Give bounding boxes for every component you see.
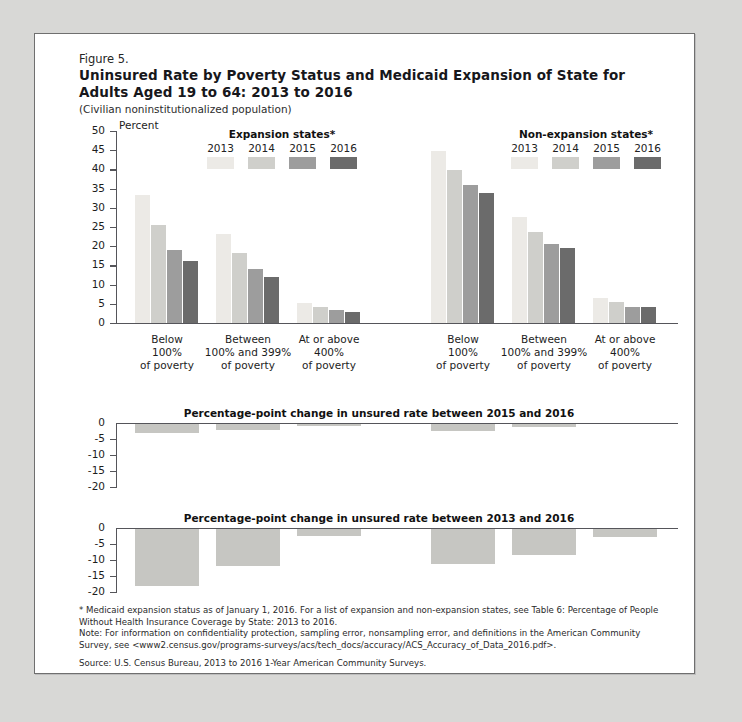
bar <box>593 298 608 323</box>
y-tick-label: 40 <box>79 162 105 174</box>
y-tick-label: 50 <box>79 124 105 136</box>
delta-bar <box>512 424 576 427</box>
legend-swatch-2016 <box>330 157 357 169</box>
y-tick <box>110 576 117 577</box>
y-tick <box>110 304 117 305</box>
y-tick <box>110 208 117 209</box>
main-bar-chart: Percent 50454035302520151050 Below100%of… <box>79 122 679 384</box>
y-tick <box>110 227 117 228</box>
delta-bar <box>431 424 495 431</box>
y-tick <box>110 560 117 561</box>
y-tick <box>110 246 117 247</box>
bar <box>447 170 462 323</box>
legend-year-2015: 2015 <box>593 142 620 154</box>
legend-swatch-2015 <box>593 157 620 169</box>
legend-swatch-2014 <box>248 157 275 169</box>
y-tick-label: 30 <box>79 201 105 213</box>
legend-swatch-2016 <box>634 157 661 169</box>
y-tick-label: 5 <box>79 297 105 309</box>
y-tick <box>110 592 117 593</box>
main-x-axis <box>116 323 678 324</box>
y-tick-label: 10 <box>79 278 105 290</box>
figure-subtitle: (Civilian noninstitutionalized populatio… <box>79 103 292 115</box>
y-tick <box>110 487 117 488</box>
y-tick-label: -10 <box>79 448 105 460</box>
figure-notes: * Medicaid expansion status as of Januar… <box>79 605 669 670</box>
y-tick-label: -15 <box>79 569 105 581</box>
bar <box>313 307 328 323</box>
footnote-text: * Medicaid expansion status as of Januar… <box>79 605 669 628</box>
y-tick-label: 0 <box>79 316 105 328</box>
delta-bar <box>135 529 199 586</box>
bar <box>512 217 527 323</box>
y-tick-label: 20 <box>79 239 105 251</box>
delta-bar <box>512 529 576 555</box>
y-tick-label: 25 <box>79 220 105 232</box>
bar <box>345 312 360 323</box>
delta-bar <box>135 424 199 433</box>
figure-number: Figure 5. <box>79 52 129 66</box>
legend-year-2016: 2016 <box>330 142 357 154</box>
bar <box>135 195 150 323</box>
bar <box>431 151 446 323</box>
legend-non-expansion-title: Non-expansion states* <box>491 128 681 140</box>
delta2-title: Percentage-point change in unsured rate … <box>79 512 679 524</box>
delta-bar <box>593 529 657 537</box>
y-tick-label: 0 <box>79 416 105 428</box>
figure-title: Uninsured Rate by Poverty Status and Med… <box>79 67 679 101</box>
delta-bar <box>216 424 280 430</box>
y-tick-label: 35 <box>79 182 105 194</box>
bar <box>479 193 494 323</box>
bar <box>329 310 344 323</box>
legend-year-2014: 2014 <box>552 142 579 154</box>
bar <box>560 248 575 323</box>
y-tick-label: -5 <box>79 537 105 549</box>
legend-expansion-title: Expansion states* <box>197 128 367 140</box>
legend-swatch-2013 <box>511 157 538 169</box>
delta-bar <box>297 424 361 426</box>
y-tick <box>110 471 117 472</box>
change-2015-2016-panel: Percentage-point change in unsured rate … <box>79 407 679 489</box>
bar <box>641 307 656 323</box>
legend-expansion-swatches <box>197 157 367 169</box>
bar <box>528 232 543 323</box>
y-tick <box>110 455 117 456</box>
legend-swatch-2013 <box>207 157 234 169</box>
bar <box>625 307 640 324</box>
category-label: At or above400%of poverty <box>264 333 394 372</box>
bar <box>609 302 624 323</box>
legend-year-2013: 2013 <box>511 142 538 154</box>
note-text: Note: For information on confidentiality… <box>79 628 669 651</box>
legend-expansion-states: Expansion states* 2013 2014 2015 2016 <box>197 128 367 169</box>
delta-bar <box>431 529 495 564</box>
y-tick-label: -20 <box>79 585 105 597</box>
bar <box>264 277 279 323</box>
y-axis-unit-label: Percent <box>119 119 159 131</box>
bar <box>216 234 231 323</box>
y-tick <box>110 169 117 170</box>
y-tick <box>110 189 117 190</box>
delta1-title: Percentage-point change in unsured rate … <box>79 407 679 419</box>
bar-group <box>431 131 495 323</box>
y-tick <box>110 544 117 545</box>
y-tick <box>110 131 117 132</box>
bar <box>544 244 559 323</box>
bar <box>151 225 166 323</box>
delta-bar <box>216 529 280 566</box>
y-tick <box>110 150 117 151</box>
legend-year-2014: 2014 <box>248 142 275 154</box>
figure-card: Figure 5. Uninsured Rate by Poverty Stat… <box>34 33 695 674</box>
y-tick-label: -5 <box>79 432 105 444</box>
y-tick-label: -20 <box>79 480 105 492</box>
y-tick <box>110 439 117 440</box>
y-tick <box>110 285 117 286</box>
source-text: Source: U.S. Census Bureau, 2013 to 2016… <box>79 658 669 670</box>
legend-year-2013: 2013 <box>207 142 234 154</box>
legend-swatch-2014 <box>552 157 579 169</box>
change-2013-2016-panel: Percentage-point change in unsured rate … <box>79 512 679 594</box>
delta-bar <box>297 529 361 536</box>
legend-year-2016: 2016 <box>634 142 661 154</box>
y-tick-label: -10 <box>79 553 105 565</box>
bar <box>248 269 263 323</box>
y-tick-label: 0 <box>79 521 105 533</box>
